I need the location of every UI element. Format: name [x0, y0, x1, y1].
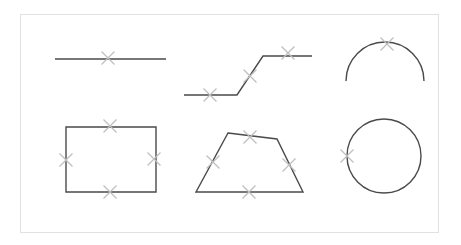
cross-marker-icon — [283, 159, 296, 172]
cross-marker-icon — [102, 52, 115, 65]
figure-canvas — [0, 0, 461, 245]
shapes-layer — [55, 42, 424, 193]
cross-marker-icon — [207, 156, 220, 169]
shape-circle — [347, 119, 421, 193]
cross-marker-icon — [282, 47, 295, 60]
cross-marker-icon — [148, 153, 161, 166]
cross-marker-icon — [381, 38, 394, 51]
shape-arc — [346, 42, 424, 81]
figure-border — [21, 15, 439, 233]
cross-marker-icon — [244, 70, 257, 83]
shapes-diagram — [0, 0, 461, 245]
cross-markers-layer — [60, 38, 394, 199]
cross-marker-icon — [104, 120, 117, 133]
shape-step-line — [184, 56, 312, 95]
shape-rectangle — [66, 127, 156, 192]
cross-marker-icon — [244, 131, 257, 144]
